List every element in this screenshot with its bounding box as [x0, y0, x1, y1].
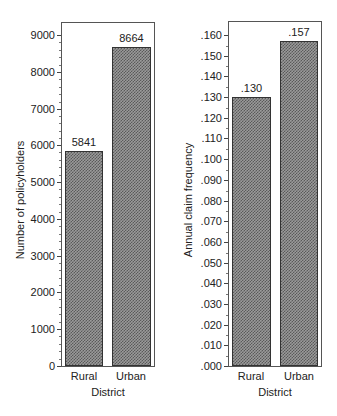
x-tick-label: Rural — [229, 370, 273, 382]
y-minor-tick — [59, 241, 61, 242]
y-minor-tick — [59, 270, 61, 271]
y-tick-label: 8000 — [15, 66, 55, 78]
y-minor-tick — [226, 66, 228, 67]
y-minor-tick — [226, 253, 228, 254]
bar-value-label: 8664 — [112, 32, 151, 44]
y-tick — [57, 219, 61, 220]
y-minor-tick — [226, 46, 228, 47]
y-minor-tick — [59, 285, 61, 286]
y-minor-tick — [226, 108, 228, 109]
y-tick — [224, 138, 228, 139]
y-minor-tick — [226, 211, 228, 212]
y-tick — [57, 366, 61, 367]
y-tick — [57, 329, 61, 330]
y-tick-label: 2000 — [15, 286, 55, 298]
y-minor-tick — [59, 79, 61, 80]
y-tick-label: .040 — [182, 277, 222, 289]
y-tick-label: .080 — [182, 195, 222, 207]
y-tick-label: 5000 — [15, 176, 55, 188]
y-minor-tick — [59, 336, 61, 337]
y-tick-label: .060 — [182, 236, 222, 248]
y-tick — [57, 109, 61, 110]
y-tick — [57, 72, 61, 73]
y-minor-tick — [226, 87, 228, 88]
y-minor-tick — [59, 65, 61, 66]
y-minor-tick — [59, 204, 61, 205]
bar-value-label: 5841 — [65, 136, 103, 148]
y-minor-tick — [59, 226, 61, 227]
y-tick-label: .020 — [182, 319, 222, 331]
x-axis-title: District — [61, 386, 155, 398]
y-minor-tick — [226, 335, 228, 336]
y-minor-tick — [59, 322, 61, 323]
y-tick-label: .090 — [182, 174, 222, 186]
y-minor-tick — [226, 273, 228, 274]
y-tick-label: .070 — [182, 215, 222, 227]
y-tick — [224, 180, 228, 181]
y-tick — [57, 182, 61, 183]
y-minor-tick — [59, 299, 61, 300]
y-minor-tick — [226, 149, 228, 150]
y-tick-label: 7000 — [15, 103, 55, 115]
y-minor-tick — [59, 167, 61, 168]
y-minor-tick — [59, 57, 61, 58]
x-tick-label: Urban — [277, 370, 321, 382]
y-minor-tick — [59, 152, 61, 153]
chart-claim-frequency: .130 .157 Rural Urban District Annual cl… — [168, 0, 337, 416]
y-tick — [224, 263, 228, 264]
y-minor-tick — [59, 87, 61, 88]
y-minor-tick — [59, 197, 61, 198]
y-tick — [57, 145, 61, 146]
y-tick — [224, 304, 228, 305]
y-minor-tick — [59, 249, 61, 250]
y-tick-label: 4000 — [15, 213, 55, 225]
y-tick — [224, 325, 228, 326]
y-minor-tick — [59, 42, 61, 43]
chart-policyholders: 5841 8664 Rural Urban District Number of… — [0, 0, 168, 416]
y-tick — [224, 242, 228, 243]
x-axis-title: District — [228, 386, 322, 398]
y-tick-label: 9000 — [15, 29, 55, 41]
y-tick-label: 0 — [15, 360, 55, 372]
y-minor-tick — [59, 175, 61, 176]
y-tick — [224, 97, 228, 98]
y-minor-tick — [59, 160, 61, 161]
bar-urban — [112, 47, 151, 366]
y-minor-tick — [59, 307, 61, 308]
bar-rural — [232, 97, 271, 366]
bar-value-label: .157 — [280, 26, 318, 38]
y-minor-tick — [59, 131, 61, 132]
x-tick-label: Rural — [62, 370, 106, 382]
y-tick-label: .160 — [182, 29, 222, 41]
y-minor-tick — [59, 138, 61, 139]
y-minor-tick — [59, 263, 61, 264]
y-axis-title: Number of policyholders — [14, 130, 26, 270]
y-tick — [224, 283, 228, 284]
y-tick — [57, 35, 61, 36]
y-tick-label: 3000 — [15, 250, 55, 262]
y-tick — [224, 76, 228, 77]
y-minor-tick — [59, 94, 61, 95]
y-tick — [224, 118, 228, 119]
y-minor-tick — [226, 128, 228, 129]
y-tick — [224, 201, 228, 202]
bar-value-label: .130 — [232, 82, 271, 94]
bar-rural — [65, 151, 103, 366]
y-minor-tick — [59, 212, 61, 213]
y-minor-tick — [59, 102, 61, 103]
y-minor-tick — [226, 294, 228, 295]
y-minor-tick — [226, 170, 228, 171]
y-tick — [224, 56, 228, 57]
y-tick-label: .120 — [182, 112, 222, 124]
y-minor-tick — [59, 314, 61, 315]
y-tick-label: .030 — [182, 298, 222, 310]
y-tick — [224, 345, 228, 346]
y-minor-tick — [226, 315, 228, 316]
y-tick-label: .010 — [182, 339, 222, 351]
y-tick-label: .110 — [182, 132, 222, 144]
y-tick-label: .150 — [182, 50, 222, 62]
y-tick-label: .130 — [182, 91, 222, 103]
bar-urban — [280, 41, 318, 366]
y-minor-tick — [226, 232, 228, 233]
y-tick-label: .050 — [182, 257, 222, 269]
